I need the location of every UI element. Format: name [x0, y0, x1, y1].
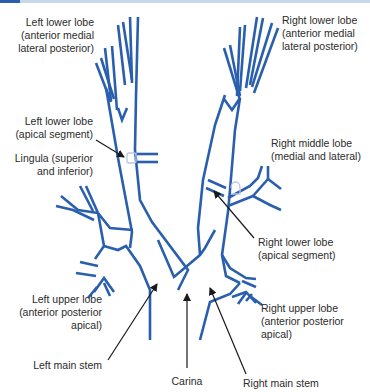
left-bronchus: [96, 17, 188, 290]
right-upper-lobe-branch: [200, 255, 262, 340]
label-lingula: Lingula (superior and inferior): [0, 152, 93, 178]
label-left-main-stem: Left main stem: [0, 359, 102, 372]
label-carina: Carina: [162, 375, 212, 388]
label-right-middle-lobe: Right middle lobe (medial and lateral): [271, 137, 361, 163]
label-left-upper-lobe: Left upper lobe (anterior posterior apic…: [0, 293, 102, 332]
label-right-upper-lobe: Right upper lobe (anterior posterior api…: [261, 302, 344, 341]
right-middle-lobe-branch: [228, 166, 281, 210]
arrow-left-lower-lobe-apical: [96, 140, 124, 157]
label-left-lower-lobe-apical: Left lower lobe (apical segment): [0, 115, 93, 141]
label-right-lower-lobe-amlp: Right lower lobe (anterior medial latera…: [282, 14, 358, 53]
label-right-main-stem: Right main stem: [243, 377, 319, 390]
label-right-lower-lobe-apical: Right lower lobe (apical segment): [258, 236, 336, 262]
label-left-lower-lobe-amlp: Left lower lobe (anterior medial lateral…: [14, 16, 94, 55]
